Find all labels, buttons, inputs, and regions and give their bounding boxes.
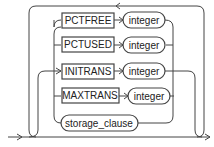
svg-text:integer: integer (134, 91, 165, 102)
keyword-maxtrans: MAXTRANS (62, 88, 119, 103)
svg-text:integer: integer (129, 15, 160, 26)
svg-text:integer: integer (129, 40, 160, 51)
keyword-pctused: PCTUSED (62, 37, 114, 52)
svg-text:MAXTRANS: MAXTRANS (62, 90, 118, 101)
svg-text:PCTUSED: PCTUSED (64, 39, 112, 50)
svg-text:PCTFREE: PCTFREE (65, 15, 112, 26)
exit-line (165, 71, 202, 137)
param-integer-3: integer (123, 63, 165, 79)
keyword-pctfree: PCTFREE (62, 13, 114, 28)
svg-text:INITRANS: INITRANS (65, 66, 112, 77)
param-integer-2: integer (123, 37, 165, 53)
param-integer-1: integer (123, 12, 165, 28)
storage-clause: storage_clause (61, 115, 138, 131)
railroad-diagram: PCTFREE integer PCTUSED integer INITRANS… (0, 0, 214, 147)
svg-text:storage_clause: storage_clause (65, 118, 133, 129)
entry-line (29, 71, 61, 137)
param-integer-4: integer (128, 88, 170, 104)
choice-rail-left (54, 27, 61, 123)
svg-text:integer: integer (129, 66, 160, 77)
keyword-initrans: INITRANS (62, 64, 114, 79)
